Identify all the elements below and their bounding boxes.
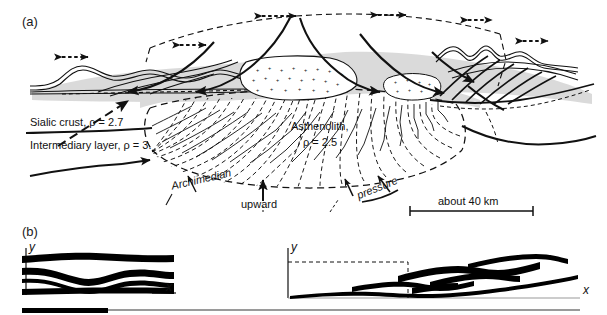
label-upward-text: upward: [241, 198, 277, 210]
label-asthenolith-text: Asthenolith,: [291, 120, 348, 132]
svg-text:+: +: [312, 87, 315, 93]
secondary-mobilised-pod: ++ ++ ++ +: [384, 74, 441, 101]
svg-text:+: +: [252, 77, 255, 83]
svg-text:+: +: [316, 66, 319, 72]
svg-text:+: +: [264, 75, 267, 81]
svg-text:+: +: [256, 67, 259, 73]
label-asthenolith-density: ρ = 2.5: [303, 136, 337, 148]
svg-text:+: +: [304, 67, 307, 73]
axis-label-y-left: y: [29, 240, 35, 254]
archimedian-leader: [166, 194, 172, 205]
label-sialic-crust-text: Sialic crust, ρ = 2.7: [30, 116, 123, 128]
svg-text:+: +: [408, 87, 411, 93]
panel-b-left-folded-layers: [22, 253, 174, 295]
svg-text:+: +: [298, 86, 301, 92]
svg-text:+: +: [396, 88, 399, 94]
svg-text:+: +: [270, 86, 273, 92]
label-scale-bar-text: about 40 km: [438, 195, 499, 207]
panel-label-b: (b): [22, 224, 38, 239]
label-asthenolith: Asthenolith,: [291, 120, 348, 132]
svg-text:+: +: [288, 75, 291, 81]
deep-interface-right: [462, 126, 596, 144]
svg-text:+: +: [268, 65, 271, 71]
label-scale-bar: about 40 km: [438, 195, 499, 207]
axis-label-x-right: x: [583, 283, 589, 297]
svg-text:+: +: [292, 65, 295, 71]
label-asthenolith-density-text: ρ = 2.5: [303, 136, 337, 148]
figure-geological-cross-section: (a): [0, 0, 607, 315]
svg-text:+: +: [428, 81, 431, 87]
svg-text:+: +: [336, 81, 339, 87]
svg-text:+: +: [326, 88, 329, 94]
svg-text:+: +: [284, 87, 287, 93]
label-upward: upward: [241, 198, 277, 210]
svg-text:+: +: [394, 79, 397, 85]
central-mobilised-core: ++ ++ ++ ++ ++ ++ ++ ++ ++ ++ ++: [240, 56, 357, 100]
svg-text:+: +: [256, 87, 259, 93]
axis-label-x-left: x: [166, 280, 172, 294]
panel-b-sheared-nappes: [290, 254, 578, 299]
bottom-crop-line: [108, 309, 580, 311]
pressure-arrow-left: [345, 179, 353, 196]
svg-text:+: +: [328, 68, 331, 74]
extension-arrows: [62, 15, 548, 57]
label-intermediary-layer-text: Intermediary layer, ρ = 3.: [30, 139, 152, 151]
svg-text:+: +: [312, 76, 315, 82]
label-sialic-crust: Sialic crust, ρ = 2.7: [30, 116, 123, 128]
axis-label-y-right: y: [291, 240, 297, 254]
scale-bar: [410, 206, 533, 216]
svg-text:+: +: [324, 78, 327, 84]
svg-text:+: +: [420, 88, 423, 94]
svg-text:+: +: [300, 77, 303, 83]
archimedian-base-curve: [30, 164, 122, 176]
bottom-crop-bar: [22, 308, 108, 313]
svg-text:+: +: [276, 77, 279, 83]
sialic-intermediary-divider: [26, 128, 152, 133]
svg-text:+: +: [280, 67, 283, 73]
label-intermediary-layer: Intermediary layer, ρ = 3.: [30, 139, 152, 151]
figure-vector-layer: ++ ++ ++ ++ ++ ++ ++ ++ ++ ++ ++ ++ ++ +…: [0, 0, 607, 315]
intermediary-layer-hatching: [152, 101, 448, 163]
